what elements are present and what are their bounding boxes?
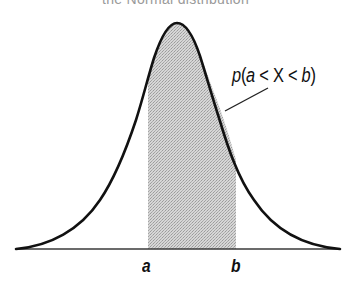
distribution-plot xyxy=(0,0,351,283)
x-label-a: a xyxy=(142,255,151,277)
shaded-probability-area xyxy=(148,23,236,249)
label-less-than-2: < xyxy=(284,64,302,86)
label-b: b xyxy=(302,64,311,86)
label-a: a xyxy=(246,64,255,86)
normal-distribution-figure: the Normal distribution p(a < X < b) a b xyxy=(0,0,351,283)
label-close-paren: ) xyxy=(310,64,315,86)
x-label-b: b xyxy=(231,255,241,277)
label-p: p xyxy=(232,64,241,86)
label-leader-line xyxy=(225,88,268,111)
label-X: X xyxy=(273,64,284,86)
label-less-than-1: < xyxy=(255,64,273,86)
probability-area-label: p(a < X < b) xyxy=(232,64,316,87)
